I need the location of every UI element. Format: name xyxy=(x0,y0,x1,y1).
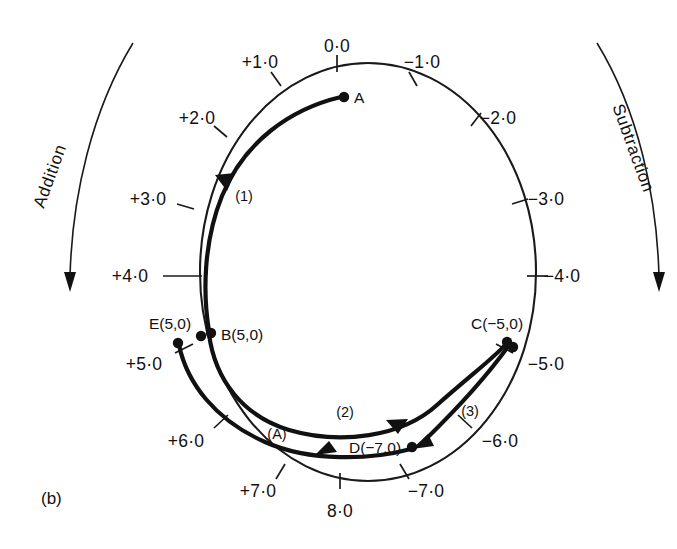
tick-plus-1-0 xyxy=(271,72,281,86)
subtraction-label: Subtraction xyxy=(608,101,658,195)
addition-arc xyxy=(70,43,133,277)
step-label-1: (1) xyxy=(235,188,253,204)
scale-label-plus-6-0: +6·0 xyxy=(168,431,204,451)
tick-plus-7-0 xyxy=(276,464,285,479)
scale-label-plus-5-0: +5·0 xyxy=(126,354,162,374)
scale-label-minus-1-0: −1·0 xyxy=(404,52,440,72)
scale-label-minus-6-0: −6·0 xyxy=(482,431,518,451)
node-label-d: D(−7,0) xyxy=(349,439,401,456)
scale-label-minus-7-0: −7·0 xyxy=(408,481,444,501)
move-arc-1 xyxy=(205,97,341,331)
scale-label-8-0: 8·0 xyxy=(327,501,353,521)
scale-label-plus-3-0: +3·0 xyxy=(130,189,166,209)
move-arc-2 xyxy=(209,334,506,437)
node-label-a: A xyxy=(354,89,365,106)
step-labels: (1) (2) (3) (A) xyxy=(235,188,479,442)
panel-label: (b) xyxy=(41,489,62,508)
operation-arcs xyxy=(64,43,665,292)
step-label-2: (2) xyxy=(336,404,354,420)
addition-arrow-icon xyxy=(64,272,76,292)
tick-plus-2-0 xyxy=(214,126,227,137)
scale-label-plus-2-0: +2·0 xyxy=(179,108,215,128)
subtraction-arrow-icon xyxy=(653,272,665,292)
node-dot-d xyxy=(407,442,417,452)
tick-plus-3-0 xyxy=(177,204,194,209)
figure-panel-b: 0·0 +1·0 +2·0 +3·0 +4·0 +5·0 +6·0 +7·0 8… xyxy=(0,0,677,549)
scale-label-minus-3-0: −3·0 xyxy=(528,189,564,209)
node-dot-b-alt xyxy=(196,331,206,341)
node-label-b: B(5,0) xyxy=(221,326,263,343)
scale-label-minus-5-0: −5·0 xyxy=(528,354,564,374)
scale-label-plus-4-0: +4·0 xyxy=(112,266,148,286)
node-label-c: C(−5,0) xyxy=(471,315,523,332)
node-dot-b xyxy=(206,328,216,338)
addition-label: Addition xyxy=(30,142,71,211)
step-label-answer: (A) xyxy=(267,426,286,442)
node-dot-a xyxy=(339,92,349,102)
node-dot-c-alt xyxy=(508,342,518,352)
scale-label-minus-2-0: −2·0 xyxy=(480,108,516,128)
node-label-e: E(5,0) xyxy=(149,315,191,332)
move-arc-1-arrow-icon xyxy=(215,173,235,191)
scale-label-0-0: 0·0 xyxy=(324,36,350,56)
scale-label-plus-7-0: +7·0 xyxy=(240,481,276,501)
dial-diagram: 0·0 +1·0 +2·0 +3·0 +4·0 +5·0 +6·0 +7·0 8… xyxy=(0,0,677,549)
scale-labels: 0·0 +1·0 +2·0 +3·0 +4·0 +5·0 +6·0 +7·0 8… xyxy=(112,36,580,521)
node-dot-e xyxy=(173,338,183,348)
scale-label-minus-4-0: −4·0 xyxy=(544,266,580,286)
move-arc-1-path xyxy=(205,97,341,331)
tick-minus-1-0 xyxy=(409,72,417,86)
move-arc-2-path xyxy=(209,334,506,437)
scale-label-plus-1-0: +1·0 xyxy=(242,52,278,72)
step-label-3: (3) xyxy=(461,403,479,419)
move-arc-3-path xyxy=(425,344,510,440)
move-arc-answer-arrow-icon xyxy=(315,441,337,455)
